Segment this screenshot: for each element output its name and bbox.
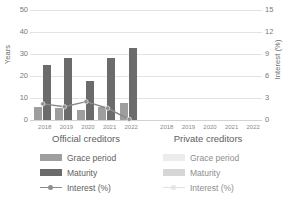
y-axis-left-ticks: 50403020100: [10, 6, 28, 120]
legend-label: Interest (%): [190, 183, 234, 193]
interest-data-point: [127, 117, 131, 121]
interest-data-point: [62, 105, 66, 109]
x-axis-tick-label: 2018: [156, 122, 178, 132]
x-axis-tick-label: 2021: [99, 122, 121, 132]
axis-tick-label: 6: [265, 72, 283, 80]
axis-tick-label: 30: [10, 50, 28, 58]
axis-tick-label: 10: [10, 94, 28, 102]
legend-label: Grace period: [190, 153, 239, 163]
interest-data-point: [41, 102, 45, 106]
panel-private-creditors: [154, 10, 262, 120]
axis-tick-label: 15: [265, 6, 283, 14]
axis-tick-label: 12: [265, 28, 283, 36]
x-axis-tick-label: 2022: [242, 122, 264, 132]
axis-tick-label: 20: [10, 72, 28, 80]
interest-data-point: [84, 99, 88, 103]
legend-item[interactable]: Grace period: [163, 150, 291, 165]
x-axis-tick-label: 2020: [199, 122, 221, 132]
gridline: [30, 120, 262, 121]
y-axis-right-ticks: 15129630: [265, 6, 283, 120]
legend-line-marker-icon: [163, 184, 185, 191]
axis-tick-label: 3: [265, 94, 283, 102]
panel-title-official: Official creditors: [32, 133, 140, 144]
interest-data-point: [105, 106, 109, 110]
x-axis-labels-private: 20182019202020212022: [154, 122, 262, 132]
legend-item[interactable]: Grace period: [40, 150, 170, 165]
chart-container: Years Interest (%) 50403020100 15129630 …: [0, 0, 291, 199]
panel-title-private: Private creditors: [154, 133, 262, 144]
legend-swatch-icon: [40, 169, 62, 176]
legend-swatch-icon: [40, 154, 62, 161]
axis-tick-label: 40: [10, 28, 28, 36]
x-axis-tick-label: 2019: [178, 122, 200, 132]
plot-area: [30, 10, 262, 120]
x-axis-tick-label: 2019: [56, 122, 78, 132]
legend-swatch-icon: [163, 169, 185, 176]
axis-tick-label: 0: [10, 116, 28, 124]
x-axis-labels-official: 20182019202020212022: [32, 122, 140, 132]
axis-tick-label: 50: [10, 6, 28, 14]
legend-swatch-icon: [163, 154, 185, 161]
legend-label: Maturity: [190, 168, 220, 178]
interest-line-path: [43, 102, 129, 120]
legend-label: Maturity: [67, 168, 97, 178]
x-axis-tick-label: 2022: [120, 122, 142, 132]
legend-private: Grace periodMaturityInterest (%): [163, 150, 291, 195]
interest-line-private: [154, 10, 262, 120]
axis-tick-label: 0: [265, 116, 283, 124]
panel-official-creditors: [32, 10, 140, 120]
legend-item[interactable]: Interest (%): [163, 180, 291, 195]
legend-official: Grace periodMaturityInterest (%): [40, 150, 170, 195]
x-axis-tick-label: 2020: [77, 122, 99, 132]
legend-line-marker-icon: [40, 184, 62, 191]
legend-label: Interest (%): [67, 183, 111, 193]
interest-line-official: [32, 10, 140, 120]
x-axis-tick-label: 2021: [221, 122, 243, 132]
axis-tick-label: 9: [265, 50, 283, 58]
legend-item[interactable]: Maturity: [40, 165, 170, 180]
legend-label: Grace period: [67, 153, 116, 163]
legend-item[interactable]: Maturity: [163, 165, 291, 180]
x-axis-tick-label: 2018: [34, 122, 56, 132]
legend-item[interactable]: Interest (%): [40, 180, 170, 195]
